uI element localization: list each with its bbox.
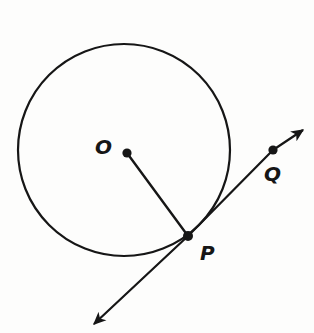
point-q-dot bbox=[268, 145, 277, 154]
label-tangency-p: P bbox=[200, 241, 215, 265]
point-p-dot bbox=[183, 231, 193, 241]
point-o-dot bbox=[122, 148, 131, 157]
label-center-o: O bbox=[95, 135, 112, 159]
figure-canvas: O P Q bbox=[0, 0, 314, 333]
geometry-figure: O P Q bbox=[0, 0, 314, 333]
label-external-q: Q bbox=[264, 162, 281, 186]
